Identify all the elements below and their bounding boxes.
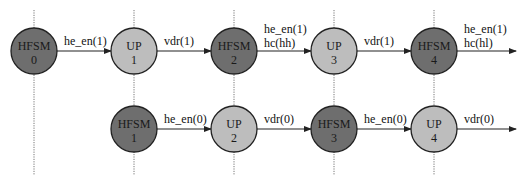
hfsm-node-0: HFSM0 [11, 28, 57, 74]
hfsm-node-1: HFSM1 [111, 106, 157, 152]
node-index: 4 [431, 131, 437, 145]
transition-edge: he_en(0) [157, 112, 211, 129]
transition-edge: vdr(1) [157, 34, 211, 51]
edge-label: he_en(1) [64, 34, 107, 48]
transition-edge: he_en(1)hc(hl) [457, 22, 516, 51]
up-node-2: UP2 [211, 106, 257, 152]
node-index: 0 [31, 53, 37, 67]
node-index: 2 [231, 53, 237, 67]
transition-edge: he_en(1) [57, 34, 111, 51]
transition-edge: he_en(0) [357, 112, 411, 129]
node-index: 3 [331, 131, 337, 145]
edge-label: hc(hl) [464, 36, 493, 50]
node-name: HFSM [418, 39, 451, 53]
node-name: UP [426, 117, 442, 131]
transition-edge: vdr(0) [457, 112, 516, 129]
node-index: 1 [131, 131, 137, 145]
up-node-1: UP1 [111, 28, 157, 74]
edge-label: he_en(1) [464, 22, 507, 36]
transition-edge: he_en(1)hc(hh) [257, 22, 311, 51]
transition-edge: vdr(1) [357, 34, 411, 51]
up-node-3: UP3 [311, 28, 357, 74]
up-node-4: UP4 [411, 106, 457, 152]
edge-label: vdr(0) [264, 112, 294, 126]
hfsm-node-3: HFSM3 [311, 106, 357, 152]
node-name: UP [226, 117, 242, 131]
node-name: HFSM [18, 39, 51, 53]
edge-label: vdr(1) [164, 34, 194, 48]
node-index: 2 [231, 131, 237, 145]
transition-edge: vdr(0) [257, 112, 311, 129]
edge-label: hc(hh) [264, 36, 295, 50]
hfsm-node-4: HFSM4 [411, 28, 457, 74]
state-sequence-diagram: he_en(1)vdr(1)he_en(1)hc(hh)vdr(1)he_en(… [0, 0, 521, 175]
diagram-svg: he_en(1)vdr(1)he_en(1)hc(hh)vdr(1)he_en(… [0, 0, 521, 175]
edge-label: he_en(1) [264, 22, 307, 36]
node-index: 4 [431, 53, 437, 67]
node-name: UP [126, 39, 142, 53]
edge-label: vdr(0) [464, 112, 494, 126]
node-index: 3 [331, 53, 337, 67]
node-name: HFSM [218, 39, 251, 53]
hfsm-node-2: HFSM2 [211, 28, 257, 74]
node-index: 1 [131, 53, 137, 67]
edge-label: he_en(0) [364, 112, 407, 126]
node-name: HFSM [318, 117, 351, 131]
node-name: UP [326, 39, 342, 53]
edge-label: vdr(1) [364, 34, 394, 48]
edge-label: he_en(0) [164, 112, 207, 126]
node-name: HFSM [118, 117, 151, 131]
